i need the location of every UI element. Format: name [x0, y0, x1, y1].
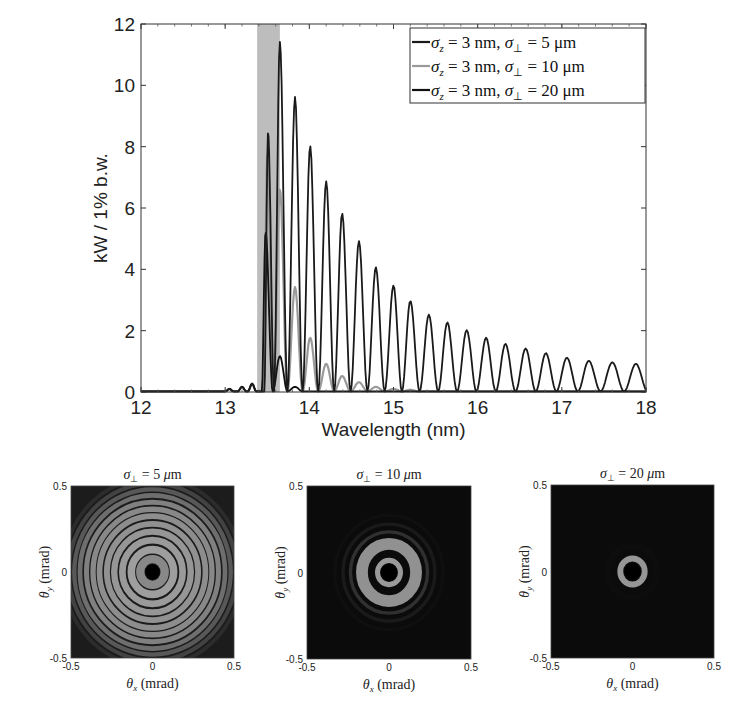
legend-entry-label: σz = 3 nm, σ⊥ = 10 μm: [431, 57, 585, 78]
dark-center: [145, 564, 160, 579]
panel-x-tick: 0: [150, 661, 156, 672]
y-tick-label: 2: [124, 321, 135, 342]
panel-y-tick: 0: [297, 568, 303, 579]
angular-distribution-panels: σ⊥ = 5 μm-0.500.5-0.500.5θx (mrad)θy (mr…: [37, 466, 721, 694]
panel-x-label: θx (mrad): [363, 677, 416, 694]
y-axis-label: kW / 1% b.w.: [90, 153, 111, 263]
panel-sigma-10um: σ⊥ = 10 μm-0.500.5-0.500.5θx (mrad)θy (m…: [273, 467, 478, 694]
x-tick-label: 15: [383, 397, 404, 418]
legend-entry-label: σz = 3 nm, σ⊥ = 20 μm: [431, 81, 585, 102]
panel-x-tick: 0: [386, 662, 392, 673]
series-sigma-10um: [141, 155, 646, 391]
spectrum-plot-area: 12131415161718024681012Wavelength (nm)kW…: [90, 14, 657, 440]
panel-y-tick: 0: [541, 567, 547, 578]
x-axis-label: Wavelength (nm): [322, 419, 466, 440]
legend-entry-label: σz = 3 nm, σ⊥ = 5 μm: [431, 33, 576, 54]
y-tick-label: 12: [114, 14, 135, 35]
y-tick-label: 8: [124, 137, 135, 158]
panel-x-tick: 0.5: [464, 662, 478, 673]
x-tick-label: 13: [215, 397, 236, 418]
panel-y-label: θy (mrad): [273, 546, 290, 599]
x-tick-label: 16: [467, 397, 488, 418]
x-tick-label: 18: [635, 397, 656, 418]
panel-y-tick: 0: [61, 567, 67, 578]
y-tick-label: 4: [124, 259, 135, 280]
panel-y-tick: 0.5: [53, 481, 67, 492]
y-tick-label: 6: [124, 198, 135, 219]
panel-title: σ⊥ = 20 μm: [600, 466, 665, 483]
panel-y-tick: -0.5: [50, 653, 68, 664]
panel-y-tick: 0.5: [533, 480, 547, 491]
panel-sigma-20um: σ⊥ = 20 μm-0.500.5-0.500.5θx (mrad)θy (m…: [517, 466, 721, 693]
panel-y-tick: -0.5: [530, 653, 548, 664]
panel-x-label: θx (mrad): [126, 676, 179, 693]
x-tick-label: 17: [551, 397, 572, 418]
panel-sigma-5um: σ⊥ = 5 μm-0.500.5-0.500.5θx (mrad)θy (mr…: [37, 467, 242, 693]
spectrum-chart: 12131415161718024681012Wavelength (nm)kW…: [0, 0, 750, 722]
panel-y-tick: 0.5: [289, 481, 303, 492]
dark-center: [624, 563, 640, 580]
y-tick-label: 0: [124, 382, 135, 403]
panel-title: σ⊥ = 5 μm: [123, 467, 181, 484]
panel-x-tick: 0.5: [227, 661, 241, 672]
panel-y-label: θy (mrad): [517, 545, 534, 598]
x-tick-label: 14: [299, 397, 321, 418]
panel-y-tick: -0.5: [286, 654, 304, 665]
panel-x-tick: 0.5: [707, 661, 721, 672]
panel-title: σ⊥ = 10 μm: [356, 467, 421, 484]
legend: σz = 3 nm, σ⊥ = 5 μmσz = 3 nm, σ⊥ = 10 μ…: [410, 28, 645, 103]
dark-center: [381, 564, 397, 581]
y-tick-label: 10: [114, 75, 135, 96]
panel-x-tick: 0: [630, 661, 636, 672]
panel-y-label: θy (mrad): [37, 545, 54, 598]
panel-x-label: θx (mrad): [606, 676, 659, 693]
